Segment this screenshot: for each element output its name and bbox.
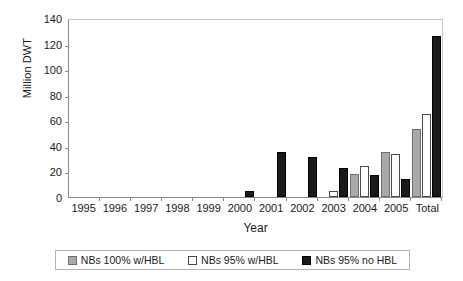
bar-group-1997 [131, 20, 162, 197]
legend-entry-2[interactable]: NBs 95% no HBL [302, 254, 397, 266]
y-axis-tick-label: 120 [22, 40, 62, 50]
bar-2004-series-1[interactable] [360, 166, 369, 197]
y-axis-tick-label: 80 [22, 91, 62, 101]
x-axis-tick-mark [192, 197, 193, 201]
x-axis-tick-mark [286, 197, 287, 201]
chart-figure: Million DWT 020406080100120140 199519961… [0, 0, 463, 281]
y-axis-tick-mark [65, 71, 69, 72]
bar-group-2005 [380, 20, 411, 197]
y-axis-tick-mark [65, 46, 69, 47]
legend-swatch-icon-0 [68, 256, 77, 265]
legend-entry-1[interactable]: NBs 95% w/HBL [188, 254, 279, 266]
legend-swatch-icon-1 [188, 256, 197, 265]
legend-swatch-icon-2 [302, 256, 311, 265]
y-axis-tick-label: 60 [22, 116, 62, 126]
x-axis-tick-label-1998: 1998 [162, 202, 193, 214]
bar-group-1995 [69, 20, 100, 197]
bar-2002-series-2[interactable] [308, 157, 317, 197]
x-axis-tick-label-2003: 2003 [318, 202, 349, 214]
x-axis-tick-label-2005: 2005 [381, 202, 412, 214]
bar-group-2003 [318, 20, 349, 197]
bar-group-2001 [255, 20, 286, 197]
y-axis-tick-mark [65, 97, 69, 98]
x-axis-tick-labels: 1995199619971998199920002001200220032004… [68, 202, 443, 214]
bar-2001-series-2[interactable] [277, 152, 286, 197]
bar-2000-series-2[interactable] [245, 191, 254, 197]
chart-legend: NBs 100% w/HBLNBs 95% w/HBLNBs 95% no HB… [55, 250, 410, 270]
legend-label: NBs 95% no HBL [315, 254, 397, 266]
y-axis-tick-mark [65, 148, 69, 149]
x-axis-tick-mark [410, 197, 411, 201]
bar-group-1996 [100, 20, 131, 197]
x-axis-tick-mark [161, 197, 162, 201]
y-axis-tick-mark [65, 122, 69, 123]
x-axis-title: Year [68, 221, 443, 235]
bar-group-2004 [349, 20, 380, 197]
x-axis-tick-label-1997: 1997 [131, 202, 162, 214]
x-axis-tick-label-2000: 2000 [224, 202, 255, 214]
y-axis-tick-labels: 020406080100120140 [22, 14, 62, 199]
x-axis-tick-label-1999: 1999 [193, 202, 224, 214]
x-axis-tick-mark [348, 197, 349, 201]
bar-2004-series-0[interactable] [350, 174, 359, 197]
bar-groups [69, 20, 442, 197]
bar-2005-series-1[interactable] [391, 154, 400, 197]
legend-label: NBs 100% w/HBL [81, 254, 164, 266]
bar-2003-series-2[interactable] [339, 168, 348, 197]
y-axis-tick-label: 140 [22, 14, 62, 24]
x-axis-tick-label-2004: 2004 [349, 202, 380, 214]
x-axis-tick-mark [130, 197, 131, 201]
legend-label: NBs 95% w/HBL [201, 254, 279, 266]
y-axis-tick-label: 0 [22, 193, 62, 203]
legend-entry-0[interactable]: NBs 100% w/HBL [68, 254, 164, 266]
y-axis-tick-mark [65, 173, 69, 174]
bar-total-series-1[interactable] [422, 114, 431, 197]
y-axis-tick-label: 20 [22, 167, 62, 177]
y-axis-tick-label: 40 [22, 142, 62, 152]
bar-2005-series-0[interactable] [381, 152, 390, 197]
plot-area [68, 19, 443, 198]
x-axis-tick-mark [254, 197, 255, 201]
bar-group-total [411, 20, 442, 197]
y-axis-tick-label: 100 [22, 65, 62, 75]
bar-group-1998 [162, 20, 193, 197]
bar-group-2002 [287, 20, 318, 197]
x-axis-tick-label-total: Total [412, 202, 443, 214]
x-axis-tick-label-2002: 2002 [287, 202, 318, 214]
bar-group-1999 [193, 20, 224, 197]
bar-total-series-0[interactable] [412, 129, 421, 197]
x-axis-tick-mark [99, 197, 100, 201]
x-axis-tick-mark [223, 197, 224, 201]
bar-group-2000 [224, 20, 255, 197]
bar-2003-series-1[interactable] [329, 191, 338, 197]
bar-total-series-2[interactable] [432, 36, 441, 197]
x-axis-tick-mark [441, 197, 442, 201]
bar-2004-series-2[interactable] [370, 175, 379, 197]
x-axis-tick-label-1996: 1996 [99, 202, 130, 214]
x-axis-tick-mark [379, 197, 380, 201]
x-axis-tick-mark [317, 197, 318, 201]
x-axis-tick-label-1995: 1995 [68, 202, 99, 214]
x-axis-tick-label-2001: 2001 [256, 202, 287, 214]
bar-2005-series-2[interactable] [401, 179, 410, 197]
